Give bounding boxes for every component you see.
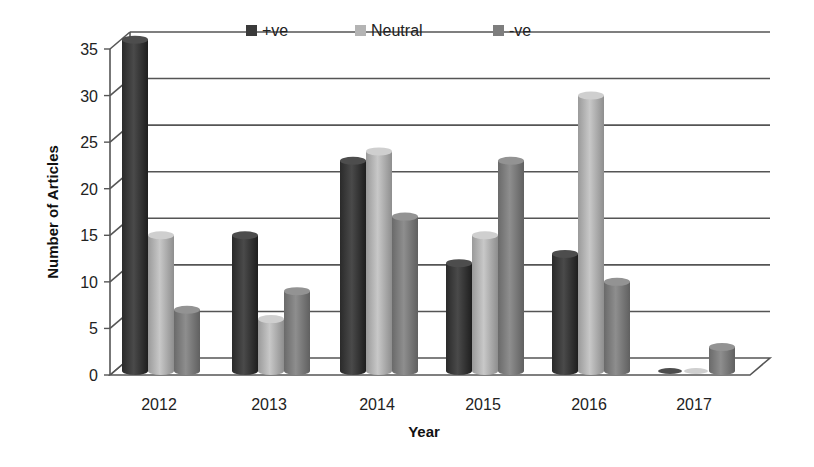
bar-2017-0 <box>658 368 682 374</box>
svg-text:Neutral: Neutral <box>371 22 423 39</box>
bar-chart: 05101520253035 201220132014201520162017 … <box>0 0 814 467</box>
gridlines <box>110 32 770 375</box>
bar-2015-2 <box>498 157 524 375</box>
bar-2013-0 <box>232 231 258 375</box>
bar-2012-2 <box>174 306 200 375</box>
y-tick-label: 10 <box>80 274 98 291</box>
x-tick-label: 2017 <box>676 396 712 413</box>
y-tick-label: 35 <box>80 41 98 58</box>
legend-item-negative: -ve <box>493 22 531 39</box>
x-tick-label: 2012 <box>141 396 177 413</box>
x-tick-label: 2013 <box>251 396 287 413</box>
bar-2014-0 <box>340 157 366 375</box>
legend-swatch-neutral-icon <box>355 25 366 36</box>
bar-2017-2 <box>709 343 735 375</box>
y-tick-label: 20 <box>80 181 98 198</box>
bar-2015-0 <box>446 259 472 375</box>
legend: +ve Neutral -ve <box>246 22 531 39</box>
bar-2015-1 <box>472 231 498 375</box>
y-tick-label: 0 <box>89 367 98 384</box>
x-axis-labels: 201220132014201520162017 <box>141 396 712 413</box>
legend-swatch-negative-icon <box>493 25 504 36</box>
bar-2016-0 <box>552 250 578 375</box>
y-axis-title: Number of Articles <box>44 145 61 279</box>
y-tick-label: 5 <box>89 320 98 337</box>
bar-2014-1 <box>366 147 392 375</box>
x-tick-label: 2014 <box>359 396 395 413</box>
legend-item-neutral: Neutral <box>355 22 423 39</box>
bar-2013-1 <box>258 315 284 375</box>
bar-2013-2 <box>284 287 310 375</box>
bars <box>122 36 735 375</box>
x-tick-label: 2016 <box>571 396 607 413</box>
x-axis-title: Year <box>408 423 440 440</box>
x-tick-label: 2015 <box>465 396 501 413</box>
y-tick-label: 15 <box>80 227 98 244</box>
bar-2016-1 <box>578 92 604 375</box>
bar-2016-2 <box>604 278 630 375</box>
y-tick-label: 25 <box>80 134 98 151</box>
bar-2014-2 <box>392 213 418 375</box>
legend-item-positive: +ve <box>246 22 288 39</box>
bar-2017-1 <box>684 368 708 374</box>
svg-text:+ve: +ve <box>262 22 288 39</box>
legend-swatch-positive-icon <box>246 25 257 36</box>
y-tick-label: 30 <box>80 88 98 105</box>
svg-text:-ve: -ve <box>509 22 531 39</box>
bar-2012-1 <box>148 231 174 375</box>
bar-2012-0 <box>122 36 148 375</box>
